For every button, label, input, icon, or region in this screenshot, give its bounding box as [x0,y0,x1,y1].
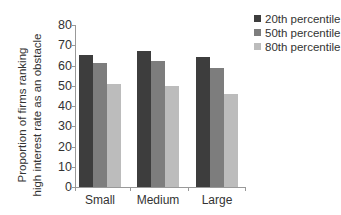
bar-medium-50th [151,61,165,187]
x-tick-mark [75,187,76,191]
legend-label: 80th percentile [265,41,340,53]
legend-label: 20th percentile [265,13,340,25]
y-axis-line [75,25,76,187]
bar-chart: Proportion of firms ranking high interes… [0,0,341,215]
x-tick-mark [130,187,131,191]
y-tick-label: 50 [50,80,72,92]
y-axis-label-line-2: high interest rate as an obstacle [30,25,45,205]
bar-small-20th [79,55,93,187]
bar-small-80th [107,84,121,187]
legend-swatch-icon [254,15,261,22]
y-tick-label: 0 [50,181,72,193]
y-tick-label: 80 [50,19,72,31]
y-axis-label: Proportion of firms ranking high interes… [15,25,49,205]
bar-large-50th [210,68,224,187]
legend-label: 50th percentile [265,27,340,39]
legend-item: 50th percentile [254,27,340,41]
legend-item: 20th percentile [254,13,340,27]
bar-large-20th [196,57,210,187]
x-category-label: Large [188,193,246,207]
x-category-label: Medium [129,193,187,207]
y-tick-label: 10 [50,161,72,173]
bar-small-50th [93,63,107,187]
bar-medium-20th [137,51,151,187]
y-tick-label: 20 [50,141,72,153]
bar-large-80th [224,94,238,187]
x-tick-mark [188,187,189,191]
x-tick-mark [245,187,246,191]
legend: 20th percentile50th percentile80th perce… [254,13,340,55]
y-axis-label-line-1: Proportion of firms ranking [15,25,30,205]
legend-item: 80th percentile [254,41,340,55]
legend-swatch-icon [254,43,261,50]
y-tick-label: 60 [50,60,72,72]
y-tick-label: 40 [50,100,72,112]
bar-medium-80th [165,86,179,187]
y-tick-label: 30 [50,120,72,132]
x-category-label: Small [71,193,129,207]
legend-swatch-icon [254,29,261,36]
x-axis-line [75,187,245,188]
y-tick-label: 70 [50,39,72,51]
